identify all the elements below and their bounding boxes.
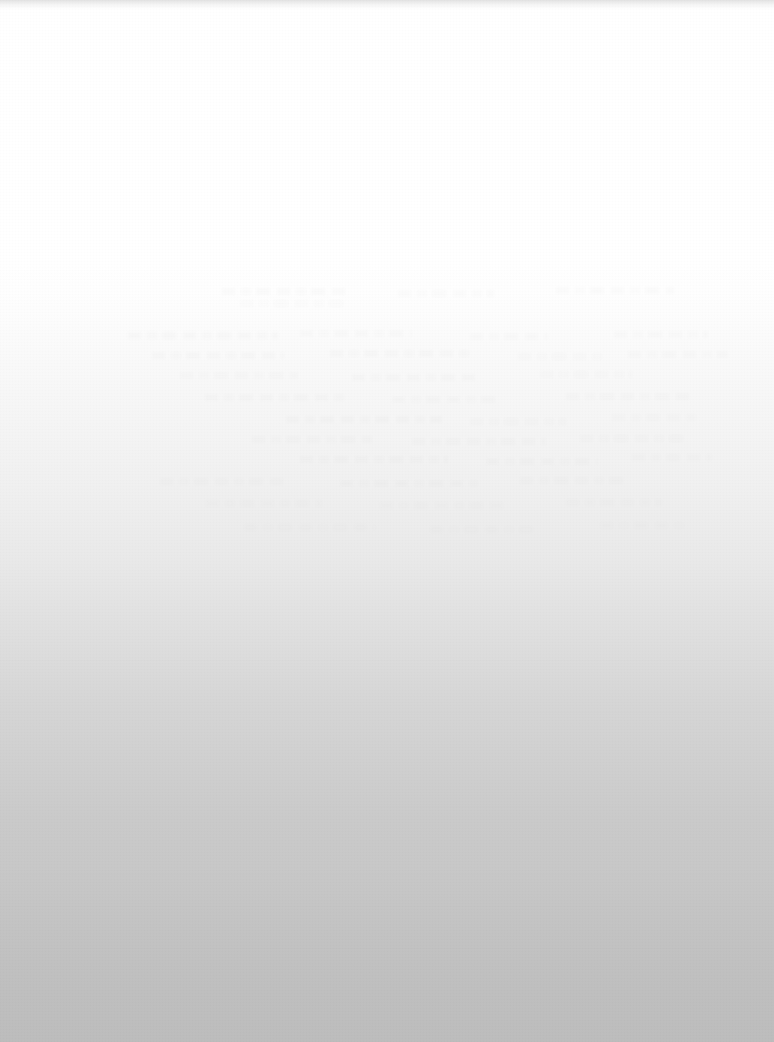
ghost-text-line [556, 287, 674, 294]
ghost-text-line [205, 394, 345, 401]
ghost-text-line [300, 330, 412, 337]
ghost-text-line [430, 526, 540, 533]
ghost-text-line [398, 290, 494, 297]
ghost-text-line [392, 396, 500, 403]
ghost-text-line [286, 416, 442, 423]
scan-streak [0, 882, 774, 883]
ghost-text-line [486, 458, 598, 465]
ghost-text-line [240, 300, 344, 307]
ghost-text-line [352, 374, 478, 381]
ghost-text-line [152, 352, 284, 359]
ghost-text-line [244, 524, 376, 531]
scan-streak [0, 906, 774, 907]
scan-streak [0, 948, 774, 949]
scan-streak [0, 806, 774, 807]
ghost-text-line [518, 353, 604, 360]
ghost-text-line [470, 418, 566, 425]
ghost-text-line [520, 477, 628, 484]
ghost-text-line [580, 435, 684, 442]
paper-grain-overlay [0, 0, 774, 1042]
top-edge-band [0, 0, 774, 9]
scanned-document-page [0, 0, 774, 1042]
ghost-text-line [300, 456, 448, 463]
ghost-text-line [612, 414, 698, 421]
ghost-text-line [160, 478, 286, 485]
scan-streak [0, 712, 774, 713]
ghost-text-line [614, 331, 708, 338]
ghost-text-line [128, 332, 278, 339]
ghost-text-line [206, 500, 322, 507]
ghost-text-line [566, 393, 690, 400]
scan-streak [0, 660, 774, 661]
ghost-text-line [632, 454, 712, 461]
ghost-text-line [566, 499, 662, 506]
ghost-text-line [380, 502, 508, 509]
ghost-text-line [340, 480, 478, 487]
ghost-text-line [628, 351, 728, 358]
ghost-text-line [412, 438, 546, 445]
ghost-text-line [540, 371, 632, 378]
scan-streak [0, 874, 774, 875]
ghost-text-line [470, 333, 548, 340]
ghost-text-line [252, 436, 372, 443]
ghost-text-line [180, 372, 298, 379]
ghost-text-line [600, 522, 688, 529]
ghost-text-line [222, 288, 350, 295]
ghost-text-line [330, 350, 474, 357]
ghost-text-layer [0, 0, 774, 1042]
